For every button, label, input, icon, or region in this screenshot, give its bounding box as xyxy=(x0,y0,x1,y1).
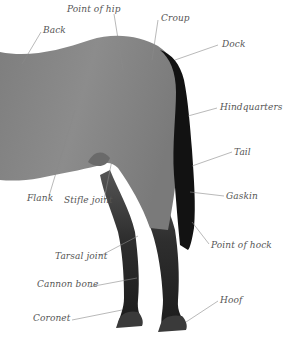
label-gaskin: Gaskin xyxy=(226,192,258,201)
label-dock: Dock xyxy=(222,40,246,49)
label-hindquarters: Hindquarters xyxy=(220,103,283,112)
label-tail: Tail xyxy=(234,148,251,157)
label-hoof: Hoof xyxy=(220,296,242,305)
leader-coronet xyxy=(72,310,122,320)
label-coronet: Coronet xyxy=(33,314,70,323)
horse-anatomy-diagram: Point of hip Croup Back Dock Hindquarter… xyxy=(0,0,284,339)
label-point-of-hock: Point of hock xyxy=(211,241,272,250)
leader-hindquarters xyxy=(188,108,217,116)
label-croup: Croup xyxy=(161,14,190,23)
leader-hoof xyxy=(186,301,218,322)
leader-dock xyxy=(175,45,218,60)
label-stifle-joint: Stifle joint xyxy=(64,196,113,205)
leader-point-of-hock xyxy=(192,222,209,244)
label-point-of-hip: Point of hip xyxy=(67,5,121,14)
leader-gaskin xyxy=(190,192,224,196)
label-cannon-bone: Cannon bone xyxy=(37,280,98,289)
label-tarsal-joint: Tarsal joint xyxy=(55,252,107,261)
label-flank: Flank xyxy=(27,194,53,203)
label-back: Back xyxy=(43,26,66,35)
leader-tail xyxy=(192,152,232,166)
far-hoof xyxy=(116,311,143,328)
